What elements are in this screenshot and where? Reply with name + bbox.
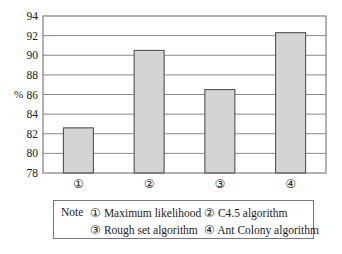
- y-tick-label: 78: [27, 167, 39, 179]
- y-tick-label: 94: [27, 10, 39, 22]
- y-tick-label: 84: [27, 108, 39, 120]
- legend: Note ① Maximum likelihood ② C4.5 algorit…: [53, 200, 314, 239]
- legend-note-label: Note: [61, 206, 83, 218]
- legend-label: Rough set algorithm: [104, 224, 198, 236]
- legend-item-4: ④ Ant Colony algorithm: [204, 223, 319, 237]
- legend-item-2: ② C4.5 algorithm: [204, 206, 288, 220]
- y-axis-label: %: [14, 88, 23, 100]
- x-tick-label: ②: [144, 177, 155, 191]
- bar-chart: 788082848688909294 ①②③④ %: [0, 0, 342, 200]
- legend-marker: ④: [204, 224, 215, 236]
- bar: [63, 128, 93, 173]
- legend-item-3: ③ Rough set algorithm: [90, 223, 198, 237]
- y-tick-label: 90: [27, 49, 39, 61]
- legend-item-1: ① Maximum likelihood: [90, 206, 201, 220]
- y-tick-label: 86: [27, 89, 39, 101]
- y-tick-label: 92: [27, 30, 39, 42]
- x-axis-ticks: ①②③④: [73, 177, 296, 191]
- bars: [63, 33, 305, 173]
- legend-marker: ③: [90, 224, 101, 236]
- y-axis-ticks: 788082848688909294: [27, 10, 39, 179]
- bar: [134, 50, 164, 173]
- legend-label: Ant Colony algorithm: [217, 224, 319, 236]
- bar: [276, 33, 306, 173]
- x-tick-label: ④: [285, 177, 296, 191]
- y-tick-label: 82: [27, 128, 39, 140]
- legend-marker: ①: [90, 207, 101, 219]
- legend-label: Maximum likelihood: [104, 207, 201, 219]
- legend-label: C4.5 algorithm: [218, 207, 288, 219]
- y-tick-label: 88: [27, 69, 39, 81]
- x-tick-label: ③: [214, 177, 225, 191]
- y-tick-label: 80: [27, 147, 39, 159]
- bar: [205, 90, 235, 173]
- legend-marker: ②: [204, 207, 215, 219]
- x-tick-label: ①: [73, 177, 84, 191]
